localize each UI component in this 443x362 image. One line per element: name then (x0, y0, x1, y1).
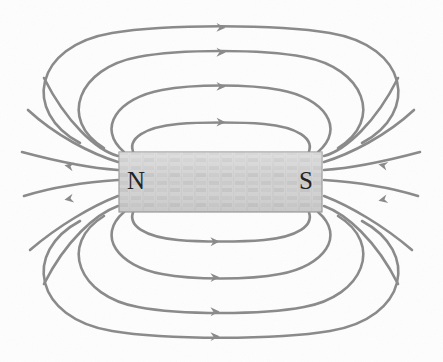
arrowhead-icon (64, 194, 75, 204)
bar-magnet (119, 152, 322, 212)
field-line-bottom-1 (132, 210, 310, 242)
field-line-right-fan-4 (324, 180, 418, 196)
arrowhead-icon (216, 48, 225, 57)
field-line-top-2 (112, 86, 331, 153)
field-line-canvas (0, 0, 443, 362)
field-line-right-fan-1 (324, 78, 398, 156)
arrowhead-icon (377, 195, 388, 206)
magnet-south-pole-label: S (299, 168, 313, 193)
field-line-bottom-3 (79, 216, 364, 313)
field-line-top-1 (132, 123, 310, 155)
field-line-left-fan-2 (28, 110, 118, 162)
field-line-top-3 (79, 51, 364, 148)
magnetic-field-diagram: N S (0, 0, 443, 362)
magnet-shading (119, 152, 322, 212)
field-line-left-fan-1 (44, 78, 118, 156)
field-line-right-fan-2 (324, 110, 414, 162)
field-line-bottom-2 (112, 212, 331, 279)
magnet-north-pole-label: N (127, 168, 145, 193)
field-line-left-fan-4 (24, 180, 118, 196)
field-line-right-fan-3 (324, 152, 420, 170)
